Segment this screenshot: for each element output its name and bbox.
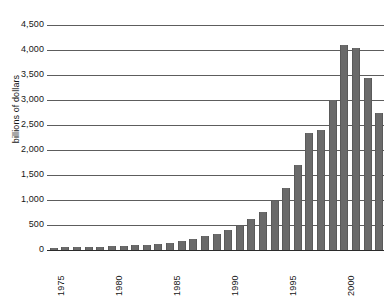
bar — [236, 226, 244, 250]
bar — [50, 248, 58, 251]
y-tick-label: 3,500 — [0, 70, 44, 79]
bar — [166, 243, 174, 251]
bar — [213, 234, 221, 250]
bar — [131, 245, 139, 250]
bar — [305, 133, 313, 251]
y-tick-label: 4,500 — [0, 20, 44, 29]
y-tick-label: 2,000 — [0, 145, 44, 154]
y-tick-label: 1,500 — [0, 170, 44, 179]
bar — [108, 246, 116, 250]
bar — [178, 241, 186, 251]
x-tick-label: 1995 — [289, 275, 298, 296]
y-axis-tick-labels: 05001,0001,5002,0002,5003,0003,5004,0004… — [0, 0, 44, 302]
y-tick-label: 0 — [0, 245, 44, 254]
bar — [352, 48, 360, 251]
y-tick-label: 500 — [0, 220, 44, 229]
bar — [85, 247, 93, 250]
bar — [120, 246, 128, 251]
bar — [61, 247, 69, 250]
x-tick-label: 1985 — [173, 275, 182, 296]
x-axis-tick-labels: 197519801985199019952000 — [47, 252, 384, 302]
bar — [73, 247, 81, 250]
bar — [201, 236, 209, 250]
bar — [294, 165, 302, 250]
bars-series — [47, 0, 384, 252]
plot-area — [47, 0, 384, 252]
bar — [154, 244, 162, 251]
bar — [247, 219, 255, 250]
bar — [329, 100, 337, 250]
bar — [364, 78, 372, 251]
bar — [271, 201, 279, 250]
bar — [340, 45, 348, 250]
bar — [282, 188, 290, 251]
bar — [259, 212, 267, 250]
bar — [189, 239, 197, 251]
y-tick-label: 3,000 — [0, 95, 44, 104]
bar — [375, 113, 383, 251]
x-tick-label: 2000 — [347, 275, 356, 296]
bar — [96, 247, 104, 251]
y-tick-label: 4,000 — [0, 45, 44, 54]
bar — [317, 130, 325, 250]
y-tick-label: 1,000 — [0, 195, 44, 204]
bar-chart: billions of dollars 05001,0001,5002,0002… — [0, 0, 388, 302]
x-tick-label: 1990 — [231, 275, 240, 296]
bar — [224, 230, 232, 250]
x-tick-label: 1980 — [115, 275, 124, 296]
bar — [143, 245, 151, 251]
y-tick-label: 2,500 — [0, 120, 44, 129]
x-tick-label: 1975 — [57, 275, 66, 296]
